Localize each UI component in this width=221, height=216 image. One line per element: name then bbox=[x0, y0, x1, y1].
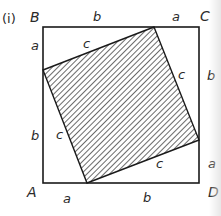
inner-side-c-left: c bbox=[56, 127, 63, 142]
panel-label: (i) bbox=[2, 11, 16, 26]
left-segment-b: b bbox=[31, 128, 39, 143]
top-segment-b: b bbox=[93, 9, 101, 24]
point-b-label: B bbox=[30, 9, 40, 25]
page-edge-shadow bbox=[209, 0, 221, 216]
left-segment-a: a bbox=[31, 38, 39, 53]
inner-side-c-bottom: c bbox=[156, 156, 163, 171]
inner-side-c-right: c bbox=[178, 67, 185, 82]
inner-side-c-top: c bbox=[83, 36, 90, 51]
point-a-label: A bbox=[26, 184, 37, 200]
bottom-segment-a: a bbox=[63, 191, 71, 206]
inner-square-hatched bbox=[43, 27, 199, 183]
pythagoras-square-diagram: (i) B C A D b a a b b a a b c c c c bbox=[0, 0, 221, 216]
top-segment-a: a bbox=[172, 9, 180, 24]
bottom-segment-b: b bbox=[143, 190, 151, 205]
